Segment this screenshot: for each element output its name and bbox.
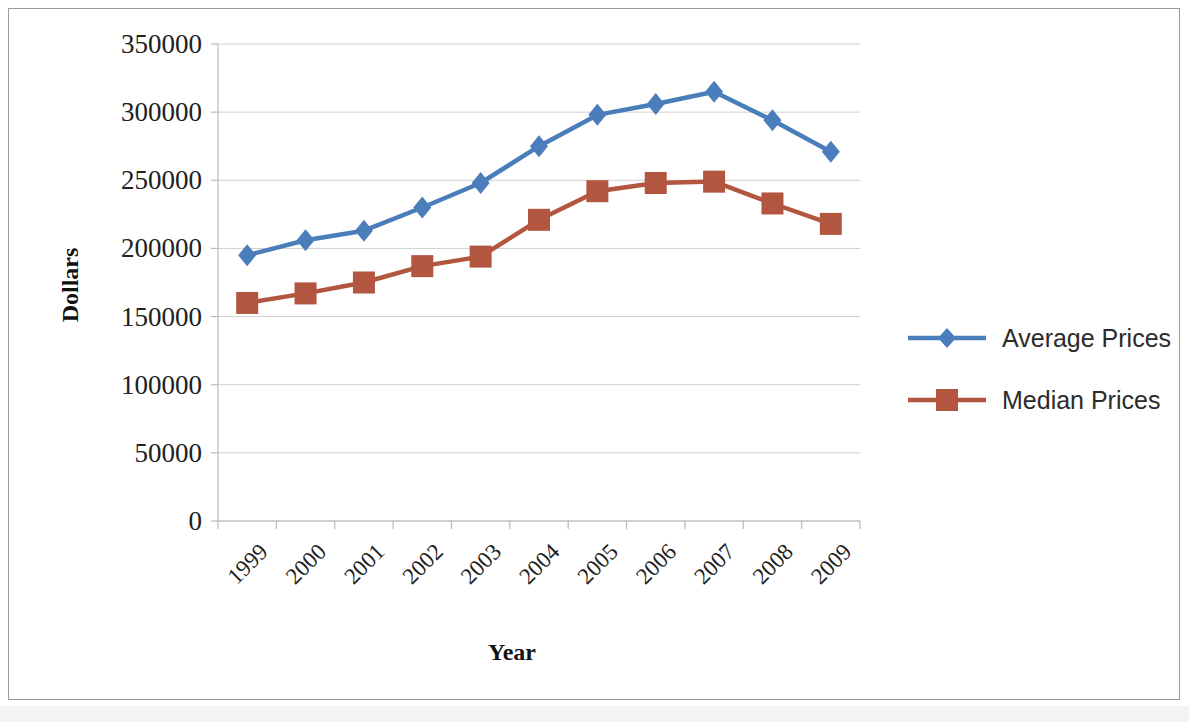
data-point-diamond-marker	[238, 244, 256, 266]
x-axis-title: Year	[488, 639, 536, 665]
data-point-square-marker	[586, 180, 608, 202]
x-tick-label: 2004	[514, 539, 565, 590]
data-point-diamond-marker	[413, 197, 431, 219]
x-tick-label: 2008	[748, 539, 798, 589]
data-point-square-marker	[353, 272, 375, 294]
x-tick-label: 2009	[806, 539, 856, 589]
y-tick-label: 350000	[121, 29, 202, 59]
legend-diamond-marker	[938, 328, 956, 348]
y-axis-title: Dollars	[57, 248, 83, 323]
y-tick-label: 50000	[135, 438, 203, 468]
chart-screenshot: 0500001000001500002000002500003000003500…	[0, 0, 1189, 722]
legend-label: Average Prices	[1002, 324, 1171, 352]
data-point-square-marker	[470, 246, 492, 268]
data-point-square-marker	[820, 213, 842, 235]
data-point-diamond-marker	[355, 220, 373, 242]
data-point-square-marker	[236, 292, 258, 314]
data-point-square-marker	[703, 171, 725, 193]
data-point-square-marker	[528, 209, 550, 231]
legend-label: Median Prices	[1002, 386, 1160, 414]
y-tick-label: 0	[189, 506, 203, 536]
x-tick-label: 2000	[281, 539, 331, 589]
data-point-diamond-marker	[530, 135, 548, 157]
y-tick-label: 200000	[121, 233, 202, 263]
y-tick-label: 100000	[121, 370, 202, 400]
series-average-prices	[238, 81, 840, 267]
data-point-diamond-marker	[472, 172, 490, 194]
data-point-square-marker	[411, 255, 433, 277]
x-tick-labels: 1999200020012002200320042005200620072008…	[223, 539, 857, 590]
y-tick-label: 150000	[121, 302, 202, 332]
x-tick-label: 2001	[339, 539, 389, 589]
legend-square-marker	[936, 389, 958, 411]
chart-legend: Average PricesMedian Prices	[908, 324, 1171, 414]
chart-svg: 0500001000001500002000002500003000003500…	[0, 0, 1189, 722]
y-tick-marks	[211, 44, 218, 521]
data-point-diamond-marker	[822, 141, 840, 163]
series-line	[247, 182, 831, 303]
data-point-diamond-marker	[588, 104, 606, 126]
x-tick-label: 2006	[631, 539, 681, 589]
y-tick-label: 250000	[121, 165, 202, 195]
y-tick-label: 300000	[121, 97, 202, 127]
data-point-square-marker	[295, 282, 317, 304]
x-tick-label: 2002	[398, 539, 448, 589]
x-tick-label: 2003	[456, 539, 506, 589]
x-tick-label: 1999	[223, 539, 273, 589]
series-median-prices	[236, 171, 842, 314]
x-tick-marks	[218, 521, 860, 529]
y-tick-labels: 0500001000001500002000002500003000003500…	[121, 29, 202, 536]
x-tick-label: 2007	[689, 539, 739, 589]
x-tick-label: 2005	[573, 539, 623, 589]
data-point-square-marker	[645, 172, 667, 194]
data-point-square-marker	[761, 192, 783, 214]
data-point-diamond-marker	[705, 81, 723, 103]
line-chart: 0500001000001500002000002500003000003500…	[0, 0, 1189, 722]
